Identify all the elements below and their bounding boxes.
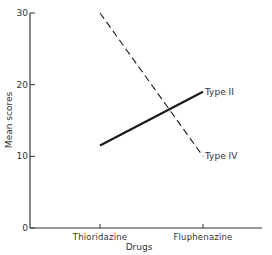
y-tick-label: 20 [17, 80, 29, 90]
x-axis: ThioridazineFluphenazine [30, 224, 262, 242]
x-axis-title: Drugs [126, 242, 153, 252]
x-tick-label: Thioridazine [72, 232, 127, 242]
x-tick-label: Fluphenazine [173, 232, 232, 242]
series-lines: Type IIType IV [100, 13, 238, 161]
y-tick-label: 0 [22, 223, 28, 233]
y-tick-label: 10 [17, 151, 29, 161]
series-line-type-iv [100, 13, 203, 156]
y-axis: 0102030 [17, 8, 35, 233]
line-chart: 0102030 ThioridazineFluphenazine Mean sc… [0, 0, 272, 255]
y-tick-label: 30 [17, 8, 29, 18]
series-label: Type II [204, 87, 234, 97]
y-axis-title: Mean scores [4, 92, 14, 149]
series-label: Type IV [204, 151, 238, 161]
series-line-type-ii [100, 92, 203, 146]
